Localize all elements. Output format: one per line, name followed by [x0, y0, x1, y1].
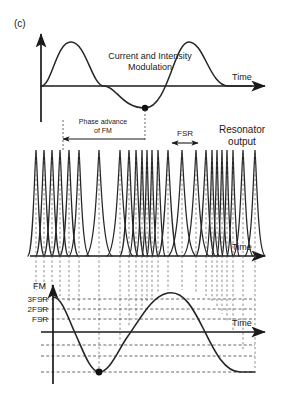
intensity-time-label: Time [232, 72, 252, 82]
phase-advance-label-line2: of FM [94, 127, 112, 134]
resonator-fringes [28, 150, 265, 256]
fm-gridlines [41, 299, 255, 372]
resonator-title-line1: Resonator [219, 124, 266, 135]
fm-tick-fsr: FSR [32, 315, 48, 324]
fsr-annotation: FSR [172, 129, 198, 143]
phase-advance-label-line1: Phase advance [79, 118, 127, 125]
fm-y-axis-label: FM [33, 281, 46, 291]
panel-fm: FM Time 3FSR 2FSR FSR [28, 281, 265, 384]
panel-resonator-output: Time [28, 150, 265, 256]
figure-container: (c) Current and Intensity Modulation Tim… [0, 0, 287, 396]
fsr-label: FSR [177, 129, 193, 138]
phase-advance-annotation: Phase advance of FM [63, 118, 145, 150]
fm-tick-2fsr: 2FSR [28, 305, 49, 314]
resonator-title-line2: output [228, 136, 256, 147]
intensity-title-line1: Current and Intensity [108, 51, 192, 61]
figure-svg: (c) Current and Intensity Modulation Tim… [0, 0, 287, 396]
panel-label: (c) [14, 18, 26, 29]
fm-time-label: Time [232, 318, 252, 328]
intensity-title-line2: Modulation [128, 62, 172, 72]
fm-minimum-marker [96, 369, 103, 376]
fm-tick-3fsr: 3FSR [28, 295, 49, 304]
resonator-title: Resonator output [219, 124, 266, 147]
